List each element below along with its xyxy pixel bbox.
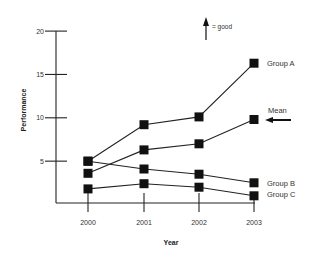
marker-group-c bbox=[84, 184, 93, 193]
marker-mean bbox=[84, 169, 93, 178]
label-group-b: Group B bbox=[267, 179, 295, 188]
marker-group-a bbox=[195, 112, 204, 121]
marker-group-a bbox=[140, 120, 149, 129]
marker-group-c bbox=[140, 179, 149, 188]
y-tick-label: 15 bbox=[36, 71, 44, 78]
marker-group-c bbox=[195, 183, 204, 192]
mean-pointer-arrow bbox=[265, 117, 291, 123]
y-tick-label: 20 bbox=[36, 28, 44, 35]
series-lines bbox=[88, 63, 254, 196]
marker-group-c bbox=[250, 191, 259, 200]
x-tick-label: 2000 bbox=[80, 219, 96, 226]
y-tick-label: 10 bbox=[36, 114, 44, 121]
y-axis-title: Performance bbox=[20, 88, 27, 131]
marker-group-b bbox=[250, 178, 259, 187]
marker-mean bbox=[250, 115, 259, 124]
x-tick-label: 2003 bbox=[246, 219, 262, 226]
left-arrowhead-icon bbox=[265, 117, 273, 123]
x-tick-label: 2001 bbox=[136, 219, 152, 226]
y-tick-label: 5 bbox=[40, 158, 44, 165]
marker-group-b bbox=[195, 170, 204, 179]
line-mean bbox=[88, 120, 254, 174]
marker-group-b bbox=[84, 157, 93, 166]
up-arrowhead-icon bbox=[203, 17, 209, 26]
x-axis-title: Year bbox=[164, 239, 179, 246]
marker-group-b bbox=[140, 165, 149, 174]
label-group-c: Group C bbox=[267, 190, 296, 199]
good-note: = good bbox=[212, 23, 232, 31]
performance-line-chart: 5101520 2000200120022003 Performance Yea… bbox=[0, 0, 314, 264]
line-group-c bbox=[88, 184, 254, 196]
y-ticks: 5101520 bbox=[36, 28, 67, 165]
marker-mean bbox=[195, 139, 204, 148]
label-mean: Mean bbox=[268, 106, 287, 115]
x-tick-label: 2002 bbox=[191, 219, 207, 226]
label-group-a: Group A bbox=[267, 59, 295, 68]
marker-group-a bbox=[250, 59, 259, 68]
line-group-b bbox=[88, 161, 254, 183]
x-ticks: 2000200120022003 bbox=[80, 193, 262, 226]
marker-mean bbox=[140, 145, 149, 154]
good-direction-legend: = good bbox=[203, 17, 232, 40]
